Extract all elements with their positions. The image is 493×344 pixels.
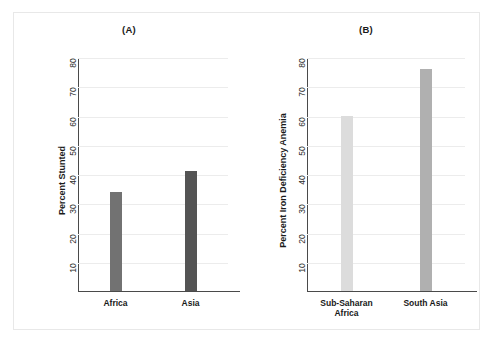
- gridline-60: [78, 117, 228, 118]
- y-tick-label-20: 20: [69, 234, 78, 243]
- y-tick-label-20: 20: [298, 234, 307, 243]
- category-label-b-1: South Asia: [386, 299, 465, 309]
- panel-a-y-axis-title: Percent Stunted: [58, 141, 67, 221]
- panel-a-plot-area: Percent Stunted 1020304050607080AfricaAs…: [78, 58, 228, 292]
- gridline-30: [307, 204, 465, 205]
- bar-a-1: [185, 171, 197, 291]
- gridline-50: [307, 146, 465, 147]
- y-tick-label-50: 50: [69, 146, 78, 155]
- panel-a: (A) Percent Stunted 1020304050607080Afri…: [6, 0, 252, 344]
- y-tick-label-30: 30: [298, 205, 307, 214]
- gridline-10: [307, 263, 465, 264]
- figure-panels: (A) Percent Stunted 1020304050607080Afri…: [0, 0, 493, 344]
- gridline-80: [78, 58, 228, 59]
- y-tick-label-40: 40: [69, 175, 78, 184]
- y-tick-label-70: 70: [69, 88, 78, 97]
- panel-b: (B) Percent Iron Deficiency Anemia 10203…: [243, 0, 489, 344]
- category-label-a-0: Africa: [78, 299, 153, 309]
- y-tick-label-50: 50: [298, 146, 307, 155]
- bar-a-0: [110, 192, 122, 291]
- panel-b-plot-area: Percent Iron Deficiency Anemia 102030405…: [307, 58, 465, 292]
- gridline-20: [307, 234, 465, 235]
- bar-b-1: [420, 69, 432, 291]
- y-tick-label-10: 10: [69, 263, 78, 272]
- category-label-a-1: Asia: [153, 299, 228, 309]
- gridline-70: [307, 87, 465, 88]
- gridline-50: [78, 146, 228, 147]
- y-tick-label-70: 70: [298, 88, 307, 97]
- gridline-10: [78, 263, 228, 264]
- gridline-40: [78, 175, 228, 176]
- y-tick-label-40: 40: [298, 175, 307, 184]
- panel-a-title: (A): [6, 24, 252, 35]
- panel-b-x-axis: [307, 291, 477, 292]
- gridline-20: [78, 234, 228, 235]
- y-tick-label-80: 80: [298, 58, 307, 67]
- panel-a-x-axis: [78, 291, 240, 292]
- gridline-60: [307, 117, 465, 118]
- y-tick-label-60: 60: [69, 117, 78, 126]
- panel-b-title: (B): [243, 24, 489, 35]
- y-tick-label-60: 60: [298, 117, 307, 126]
- y-tick-label-80: 80: [69, 58, 78, 67]
- panel-b-y-axis-title: Percent Iron Deficiency Anemia: [279, 106, 288, 256]
- gridline-80: [307, 58, 465, 59]
- gridline-70: [78, 87, 228, 88]
- y-tick-label-30: 30: [69, 205, 78, 214]
- bar-b-0: [341, 116, 353, 292]
- gridline-40: [307, 175, 465, 176]
- gridline-30: [78, 204, 228, 205]
- y-tick-label-10: 10: [298, 263, 307, 272]
- category-label-b-0: Sub-Saharan Africa: [307, 299, 386, 319]
